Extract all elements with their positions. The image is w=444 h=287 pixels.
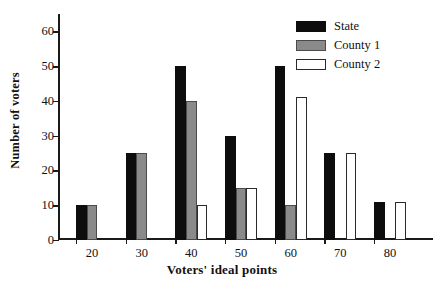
- bar-county-1-20: [87, 205, 98, 240]
- legend-swatch-state-icon: [296, 21, 326, 32]
- legend-label-state: State: [334, 19, 359, 34]
- bar-state-80: [374, 202, 385, 240]
- bar-chart: Number of voters 0102030405060 203040506…: [0, 0, 444, 287]
- y-tick-label: 60: [42, 22, 55, 40]
- bar-county-1-60: [285, 205, 296, 240]
- y-tick-label: 20: [42, 161, 55, 179]
- x-tick-mark: [225, 240, 226, 244]
- bar-state-20: [76, 205, 87, 240]
- y-tick-label: 0: [48, 231, 54, 249]
- y-tick-label: 40: [42, 92, 55, 110]
- bar-county-2-70: [346, 153, 357, 240]
- bar-state-40: [175, 66, 186, 240]
- x-tick-label: 80: [384, 246, 397, 261]
- bar-county-1-30: [136, 153, 147, 240]
- x-tick-mark: [76, 240, 77, 244]
- x-axis-title: Voters' ideal points: [0, 262, 444, 278]
- bar-county-1-50: [236, 188, 247, 240]
- legend-item-state: State: [296, 18, 428, 34]
- x-tick-label: 60: [284, 246, 297, 261]
- x-tick-label: 40: [185, 246, 198, 261]
- x-tick-label: 50: [235, 246, 248, 261]
- legend-label-county-2: County 2: [334, 57, 380, 72]
- legend-swatch-county-2-icon: [296, 59, 326, 70]
- y-tick-label: 50: [42, 57, 55, 75]
- x-tick-label: 70: [334, 246, 347, 261]
- legend-label-county-1: County 1: [334, 38, 380, 53]
- y-axis-title: Number of voters: [6, 0, 24, 240]
- x-tick-mark: [126, 240, 127, 244]
- legend-swatch-county-1-icon: [296, 40, 326, 51]
- legend: State County 1 County 2: [296, 18, 428, 75]
- bar-county-2-50: [246, 188, 257, 240]
- bar-county-1-40: [186, 101, 197, 240]
- x-tick-mark: [374, 240, 375, 244]
- y-tick-label: 10: [42, 196, 55, 214]
- legend-item-county-1: County 1: [296, 37, 428, 53]
- x-tick-mark: [324, 240, 325, 244]
- bar-county-2-60: [296, 97, 307, 240]
- bar-state-30: [126, 153, 137, 240]
- x-tick-label: 20: [86, 246, 99, 261]
- bar-county-2-40: [197, 205, 208, 240]
- x-tick-label: 30: [135, 246, 148, 261]
- x-tick-mark: [175, 240, 176, 244]
- y-axis-title-text: Number of voters: [8, 72, 23, 169]
- x-tick-mark: [275, 240, 276, 244]
- bar-state-70: [324, 153, 335, 240]
- bar-county-2-80: [395, 202, 406, 240]
- bar-state-50: [225, 136, 236, 240]
- bar-state-60: [275, 66, 286, 240]
- legend-item-county-2: County 2: [296, 56, 428, 72]
- y-tick-label: 30: [42, 127, 55, 145]
